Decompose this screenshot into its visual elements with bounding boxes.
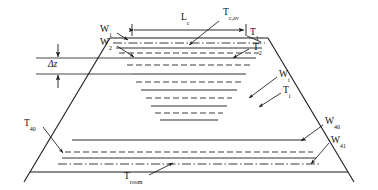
label-w41: W41 <box>331 136 346 146</box>
leader-t-cav <box>189 21 219 45</box>
figure-root: Tc,av W1 W2 T1 T2 Wi Ti T40 W40 W41 Troo… <box>0 0 378 190</box>
trapezoid-outline <box>24 38 354 182</box>
label-ti: Ti <box>283 86 290 96</box>
leader-troom <box>149 163 173 175</box>
layer-solid-lines <box>62 48 316 158</box>
lc-dimension <box>132 24 246 36</box>
leader-t2 <box>233 49 249 58</box>
leader-t40 <box>43 127 63 153</box>
diagram-canvas <box>0 0 378 190</box>
layer-dashed-lines <box>65 53 313 152</box>
leader-wi <box>249 77 277 98</box>
leader-w1 <box>117 33 128 40</box>
leader-ti <box>259 93 281 107</box>
leader-w40 <box>301 125 323 141</box>
label-w2: W2 <box>100 38 112 48</box>
label-lc: Lc <box>181 13 189 23</box>
label-dz: Δz <box>48 60 57 70</box>
layer-centerlines <box>58 43 320 164</box>
label-w40: W40 <box>325 117 340 127</box>
leader-w41 <box>311 143 329 164</box>
label-w1: W1 <box>100 25 112 35</box>
label-wi: Wi <box>279 70 290 80</box>
side-right <box>268 38 354 182</box>
side-left <box>24 38 110 182</box>
label-t2: T2 <box>253 43 262 53</box>
label-t-cav: Tc,av <box>223 8 239 18</box>
label-t1: T1 <box>250 28 259 38</box>
label-t40: T40 <box>24 119 36 129</box>
label-troom: Troom <box>124 172 142 182</box>
